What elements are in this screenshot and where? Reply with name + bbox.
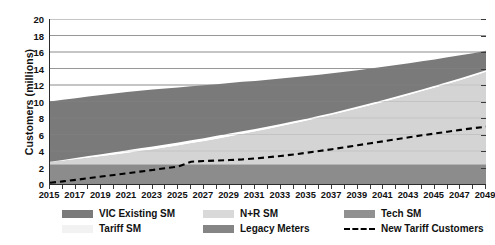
right-axis-tick-mark: [481, 135, 486, 136]
legend-color-swatch: [203, 210, 234, 218]
x-tick-mark: [254, 185, 255, 189]
x-tick-label: 2021: [116, 190, 137, 200]
x-tick-mark: [100, 185, 101, 189]
x-axis-tick-labels: 2015201720192021202320252027202920312033…: [0, 190, 488, 204]
legend-label: VIC Existing SM: [99, 208, 175, 219]
x-tick-label: 2023: [141, 190, 162, 200]
right-axis-tick-mark: [481, 19, 486, 20]
x-tick-mark: [472, 185, 473, 189]
x-tick-mark: [190, 185, 191, 189]
legend-color-swatch: [203, 225, 234, 233]
legend-label: New Tariff Customers: [381, 223, 484, 234]
x-tick-label: 2029: [218, 190, 239, 200]
legend-item[interactable]: N+R SM: [203, 208, 278, 219]
x-tick-mark: [49, 185, 50, 189]
x-tick-mark: [331, 185, 332, 189]
y-tick-label: 6: [22, 130, 44, 139]
x-tick-mark: [382, 185, 383, 189]
x-tick-mark: [216, 185, 217, 189]
x-tick-mark: [318, 185, 319, 189]
x-tick-mark: [459, 185, 460, 189]
x-tick-label: 2041: [372, 190, 393, 200]
x-tick-mark: [370, 185, 371, 189]
y-axis-tick-labels: 02468101214161820: [22, 15, 44, 187]
x-tick-mark: [408, 185, 409, 189]
x-tick-label: 2037: [321, 190, 342, 200]
x-tick-mark: [434, 185, 435, 189]
right-axis-tick-mark: [481, 36, 486, 37]
x-tick-mark: [447, 185, 448, 189]
chart-canvas: [50, 19, 486, 184]
legend-item[interactable]: Tech SM: [344, 208, 421, 219]
x-tick-label: 2047: [449, 190, 470, 200]
legend-item[interactable]: Tariff SM: [62, 223, 141, 234]
x-tick-mark: [344, 185, 345, 189]
x-tick-mark: [203, 185, 204, 189]
x-tick-mark: [139, 185, 140, 189]
x-tick-label: 2049: [475, 190, 495, 200]
right-axis-tick-mark: [481, 118, 486, 119]
x-tick-mark: [75, 185, 76, 189]
x-tick-label: 2015: [39, 190, 60, 200]
x-tick-mark: [87, 185, 88, 189]
legend-dashed-line-icon: [344, 228, 375, 230]
x-tick-label: 2039: [346, 190, 367, 200]
x-tick-mark: [305, 185, 306, 189]
x-tick-mark: [421, 185, 422, 189]
right-axis-tick-mark: [481, 168, 486, 169]
y-tick-label: 12: [22, 81, 44, 90]
x-tick-mark: [357, 185, 358, 189]
legend-label: Tech SM: [381, 208, 421, 219]
y-tick-label: 14: [22, 64, 44, 73]
right-axis-tick-mark: [481, 52, 486, 53]
chart-legend: VIC Existing SMN+R SMTech SMTariff SMLeg…: [0, 208, 488, 240]
x-tick-mark: [62, 185, 63, 189]
y-tick-label: 18: [22, 31, 44, 40]
right-axis-tick-mark: [481, 69, 486, 70]
right-axis-tick-mark: [481, 102, 486, 103]
legend-item[interactable]: New Tariff Customers: [344, 223, 484, 234]
legend-item[interactable]: Legacy Meters: [203, 223, 309, 234]
right-axis-tick-mark: [481, 85, 486, 86]
legend-item[interactable]: VIC Existing SM: [62, 208, 175, 219]
x-tick-label: 2025: [167, 190, 188, 200]
legend-color-swatch: [344, 210, 375, 218]
legend-color-swatch: [62, 210, 93, 218]
x-tick-label: 2019: [90, 190, 111, 200]
x-tick-label: 2045: [423, 190, 444, 200]
x-tick-mark: [241, 185, 242, 189]
x-tick-mark: [164, 185, 165, 189]
y-tick-label: 16: [22, 48, 44, 57]
y-tick-label: 0: [22, 180, 44, 189]
x-tick-mark: [113, 185, 114, 189]
x-tick-label: 2035: [295, 190, 316, 200]
legend-color-swatch: [62, 225, 93, 233]
x-tick-label: 2031: [244, 190, 265, 200]
x-tick-mark: [152, 185, 153, 189]
x-tick-mark: [177, 185, 178, 189]
x-tick-mark: [267, 185, 268, 189]
x-tick-mark: [485, 185, 486, 189]
x-tick-label: 2033: [269, 190, 290, 200]
y-tick-label: 20: [22, 15, 44, 24]
y-tick-label: 10: [22, 97, 44, 106]
x-tick-label: 2043: [398, 190, 419, 200]
right-axis-tick-mark: [481, 151, 486, 152]
x-tick-mark: [293, 185, 294, 189]
x-tick-label: 2017: [64, 190, 85, 200]
x-tick-mark: [126, 185, 127, 189]
legend-label: N+R SM: [240, 208, 278, 219]
x-tick-label: 2027: [193, 190, 214, 200]
y-tick-label: 4: [22, 147, 44, 156]
legend-label: Legacy Meters: [240, 223, 309, 234]
plot-area: [49, 19, 486, 185]
x-tick-mark: [229, 185, 230, 189]
x-tick-mark: [395, 185, 396, 189]
legend-label: Tariff SM: [99, 223, 141, 234]
y-tick-label: 2: [22, 163, 44, 172]
y-tick-label: 8: [22, 114, 44, 123]
x-tick-mark: [280, 185, 281, 189]
